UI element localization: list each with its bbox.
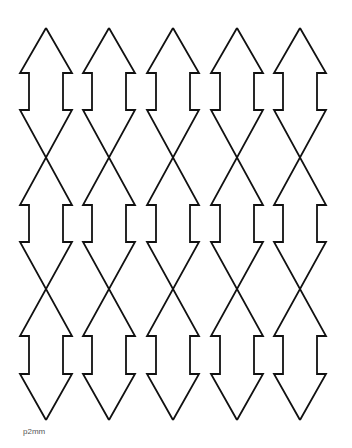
figure-caption: p2mm [23, 427, 45, 436]
arrow-column-3-right-outline [147, 28, 199, 420]
arrow-column-5-right-outline [274, 28, 326, 420]
arrow-column-1-left-outline [20, 28, 72, 420]
arrow-column-4-left-outline [211, 28, 263, 420]
arrow-column-5-left-outline [274, 28, 326, 420]
arrow-column-4-right-outline [211, 28, 263, 420]
p2mm-pattern [0, 0, 352, 448]
arrow-column-2-left-outline [83, 28, 135, 420]
arrow-column-2-right-outline [83, 28, 135, 420]
arrow-column-3-left-outline [147, 28, 199, 420]
arrow-column-1-right-outline [20, 28, 72, 420]
